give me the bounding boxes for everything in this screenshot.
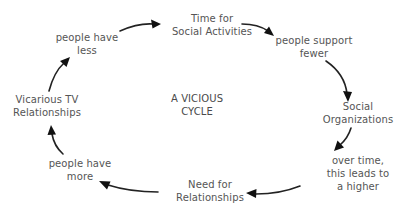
node-vicarious-tv-relationships: Vicarious TV Relationships — [13, 93, 81, 119]
center-line: A VICIOUS — [171, 92, 223, 105]
arrow-overtime-to-need — [246, 186, 300, 198]
node-line: this leads to — [327, 167, 390, 180]
node-people-have-more: people have more — [49, 157, 112, 183]
node-line: a higher — [327, 180, 390, 193]
node-line: Relationships — [13, 106, 81, 119]
node-line: more — [49, 170, 112, 183]
arrow-more-to-vicarious — [48, 125, 64, 154]
node-line: Vicarious TV — [13, 93, 81, 106]
node-line: less — [56, 44, 119, 57]
node-line: over time, — [327, 154, 390, 167]
node-line: fewer — [276, 47, 353, 60]
node-line: Organizations — [323, 113, 393, 126]
node-line: Social Activities — [172, 25, 252, 38]
arrow-support-to-orgs — [326, 61, 352, 102]
node-time-for-social-activities: Time for Social Activities — [172, 12, 252, 38]
center-label-vicious-cycle: A VICIOUS CYCLE — [171, 92, 223, 118]
node-people-support-fewer: people support fewer — [276, 34, 353, 60]
center-line: CYCLE — [171, 105, 223, 118]
node-line: Time for — [172, 12, 252, 25]
node-line: Social — [323, 100, 393, 113]
arrow-less-to-time — [120, 20, 161, 32]
node-line: Need for — [176, 178, 244, 191]
node-line: people support — [276, 34, 353, 47]
node-social-organizations: Social Organizations — [323, 100, 393, 126]
node-line: people have — [56, 31, 119, 44]
node-people-have-less: people have less — [56, 31, 119, 57]
arrow-orgs-to-overtime — [334, 128, 351, 151]
node-line: Relationships — [176, 191, 244, 204]
node-need-for-relationships: Need for Relationships — [176, 178, 244, 204]
arrow-vicarious-to-less — [49, 57, 70, 91]
node-over-time: over time, this leads to a higher — [327, 154, 390, 193]
node-line: people have — [49, 157, 112, 170]
